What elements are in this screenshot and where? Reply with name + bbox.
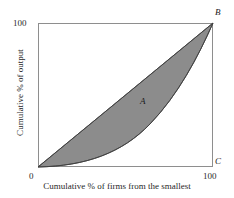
x-axis-title: Cumulative % of firms from the smallest	[0, 182, 234, 191]
point-label-c: C	[215, 157, 221, 166]
x-axis-tick-0: 0	[29, 172, 34, 181]
lorenz-curve-figure: 100 0 100 B C A Cumulative % of firms fr…	[0, 0, 234, 198]
y-axis-title: Cumulative % of output	[16, 28, 25, 158]
point-label-a: A	[140, 97, 146, 106]
point-label-b: B	[215, 8, 221, 17]
line-of-equality	[38, 23, 213, 167]
plot-drawing-area	[38, 23, 213, 167]
x-axis-tick-100: 100	[203, 172, 217, 181]
